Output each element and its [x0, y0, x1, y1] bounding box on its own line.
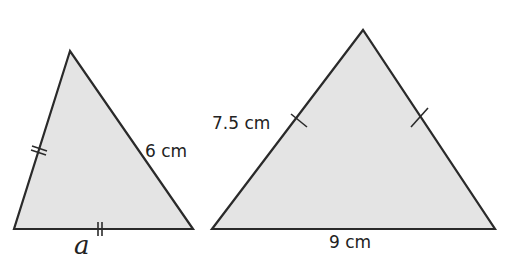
right-triangle-side-label: 7.5 cm [212, 115, 270, 132]
left-triangle-side-label: 6 cm [145, 143, 187, 160]
left-triangle-base-variable: a [74, 232, 90, 258]
left-triangle [14, 51, 193, 229]
right-triangle-base-label: 9 cm [329, 234, 371, 251]
